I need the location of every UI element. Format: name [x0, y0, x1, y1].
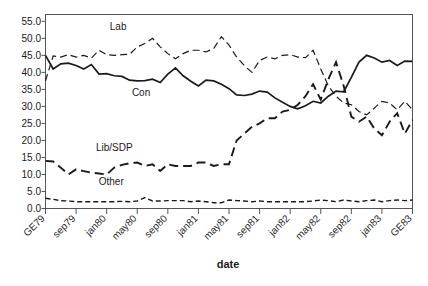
y-tick-label: 0.0: [27, 203, 41, 214]
series-label-lib-sdp: Lib/SDP: [96, 142, 133, 153]
y-tick-label: 45.0: [22, 50, 42, 61]
y-tick-label: 10.0: [22, 169, 42, 180]
y-tick-label: 15.0: [22, 152, 42, 163]
chart-background: [0, 0, 428, 286]
series-label-lab: Lab: [110, 21, 127, 32]
y-tick-label: 50.0: [22, 33, 42, 44]
series-label-con: Con: [132, 87, 150, 98]
chart-figure: 0.05.010.015.020.025.030.035.040.045.050…: [0, 0, 428, 286]
y-tick-label: 25.0: [22, 118, 42, 129]
line-chart: 0.05.010.015.020.025.030.035.040.045.050…: [0, 0, 428, 286]
y-tick-label: 35.0: [22, 84, 42, 95]
figure-caption-strip: [0, 276, 428, 286]
x-axis-title: date: [217, 258, 240, 270]
y-tick-label: 30.0: [22, 101, 42, 112]
y-tick-label: 55.0: [22, 16, 42, 27]
y-tick-label: 5.0: [27, 186, 41, 197]
y-tick-label: 20.0: [22, 135, 42, 146]
series-label-other: Other: [99, 176, 125, 187]
y-tick-label: 40.0: [22, 67, 42, 78]
